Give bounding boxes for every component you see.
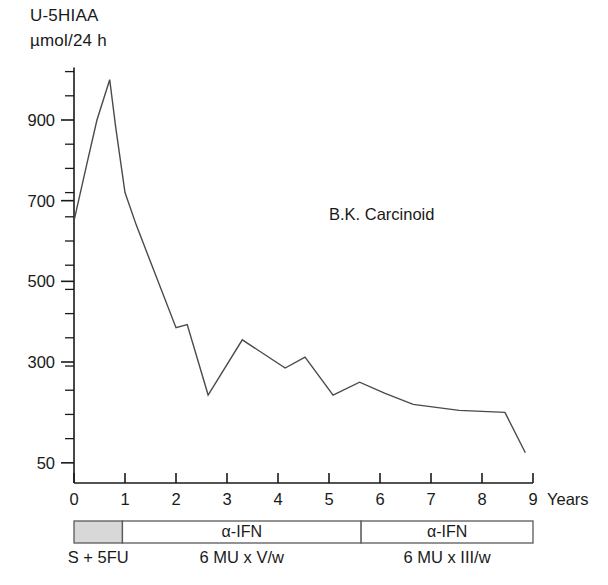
- treatment-caption-s5fu: S + 5FU: [68, 548, 129, 566]
- y-tick-label: 900: [27, 111, 55, 129]
- x-tick-label: 3: [222, 490, 231, 508]
- treatment-timeline: S + 5FUα-IFN6 MU x V/wα-IFN6 MU x III/w: [68, 521, 533, 566]
- y-tick-label: 500: [27, 272, 55, 290]
- treatment-label-ifn2: α-IFN: [427, 523, 467, 540]
- x-tick-label: 6: [375, 490, 384, 508]
- y-tick-label: 50: [37, 454, 55, 472]
- y-axis: 50300500700900: [27, 68, 74, 483]
- treatment-caption-ifn2: 6 MU x III/w: [404, 548, 491, 566]
- chart-canvas: 50300500700900 0123456789Years S + 5FUα-…: [0, 0, 608, 585]
- y-tick-label: 300: [27, 353, 55, 371]
- data-line-u-5hiaa: [74, 80, 525, 453]
- x-tick-label: 1: [120, 490, 129, 508]
- x-tick-label: 2: [171, 490, 180, 508]
- x-tick-label: 8: [477, 490, 486, 508]
- x-tick-label: 9: [528, 490, 537, 508]
- treatment-caption-ifn1: 6 MU x V/w: [200, 548, 284, 566]
- chart-figure: U-5HIAA µmol/24 h B.K. Carcinoid 5030050…: [0, 0, 608, 585]
- x-tick-label: 5: [324, 490, 333, 508]
- data-series-group: [74, 80, 525, 453]
- treatment-box-s5fu: [74, 521, 122, 543]
- x-tick-label: 0: [69, 490, 78, 508]
- x-axis-title: Years: [547, 490, 589, 508]
- x-axis: 0123456789Years: [69, 473, 588, 508]
- treatment-label-ifn1: α-IFN: [222, 523, 262, 540]
- y-tick-label: 700: [27, 192, 55, 210]
- x-tick-label: 7: [426, 490, 435, 508]
- x-tick-label: 4: [273, 490, 282, 508]
